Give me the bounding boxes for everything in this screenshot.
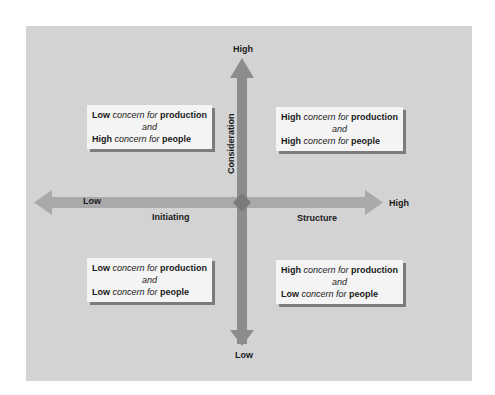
center-diamond (233, 193, 251, 212)
quadrant-top-left: Low concern for production and High conc… (87, 105, 212, 149)
h-axis-title-initiating: Initiating (152, 212, 190, 222)
quadrant-bottom-left: Low concern for production and Low conce… (87, 258, 212, 302)
quadrant-bottom-right: High concern for production and Low conc… (276, 260, 403, 304)
v-axis-high-label: High (233, 44, 253, 54)
h-axis-title-structure: Structure (297, 213, 337, 223)
axes-arrows (0, 0, 495, 395)
h-axis-high-label: High (389, 198, 409, 208)
quadrant-top-right: High concern for production and High con… (276, 107, 403, 151)
v-axis-low-label: Low (235, 350, 253, 360)
h-axis-low-label: Low (83, 196, 101, 206)
v-axis-title: Consideration (226, 113, 236, 174)
